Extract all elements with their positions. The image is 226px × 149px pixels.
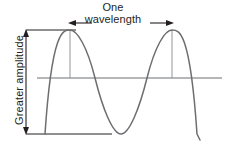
wave-amplitude-wavelength-diagram: One wavelength Greater amplitude xyxy=(0,0,226,149)
wavelength-label: One wavelength xyxy=(0,1,226,25)
amplitude-label: Greater amplitude xyxy=(13,28,25,132)
wavelength-label-line2: wavelength xyxy=(0,13,226,25)
wave-curve xyxy=(45,30,200,140)
wavelength-label-line1: One xyxy=(0,1,226,13)
